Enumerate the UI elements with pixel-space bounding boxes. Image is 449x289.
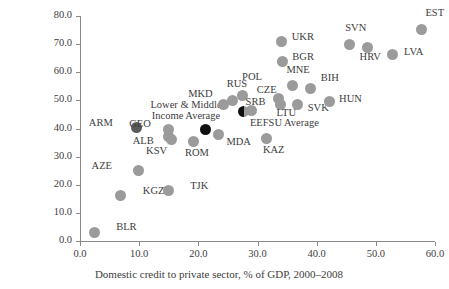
x-tick-label-40.0: 40.0 bbox=[295, 248, 339, 259]
data-point-svn bbox=[344, 39, 355, 50]
x-tick-60.0 bbox=[435, 242, 436, 246]
point-label-blr: BLR bbox=[116, 221, 136, 232]
point-label-mne: MNE bbox=[286, 64, 309, 75]
point-label-lva: LVA bbox=[404, 46, 423, 57]
point-label-lower-middle: Lower & MiddleIncome Average bbox=[150, 99, 221, 121]
data-point-est bbox=[416, 24, 427, 35]
y-tick-label-0.0: 0.0 bbox=[32, 234, 72, 245]
point-label-line2: Income Average bbox=[150, 110, 221, 121]
x-tick-20.0 bbox=[198, 242, 199, 246]
point-label-est: EST bbox=[425, 7, 444, 18]
y-axis-line bbox=[80, 16, 81, 242]
x-tick-label-0.0: 0.0 bbox=[58, 248, 102, 259]
x-tick-label-30.0: 30.0 bbox=[236, 248, 280, 259]
point-label-tjk: TJK bbox=[190, 180, 208, 191]
point-label-geo: GEO bbox=[129, 118, 151, 129]
data-point-bih bbox=[305, 83, 316, 94]
y-tick-20.0 bbox=[76, 185, 80, 186]
point-label-pol: POL bbox=[242, 71, 262, 82]
y-tick-label-30.0: 30.0 bbox=[32, 150, 72, 161]
point-label-bgr: BGR bbox=[292, 51, 314, 62]
x-tick-10.0 bbox=[139, 242, 140, 246]
x-tick-0.0 bbox=[80, 242, 81, 246]
point-label-line1: Lower & Middle bbox=[150, 99, 221, 110]
point-label-hrv: HRV bbox=[360, 51, 381, 62]
x-tick-label-60.0: 60.0 bbox=[413, 248, 449, 259]
y-tick-30.0 bbox=[76, 157, 80, 158]
y-tick-label-10.0: 10.0 bbox=[32, 206, 72, 217]
y-tick-label-40.0: 40.0 bbox=[32, 122, 72, 133]
point-label-svn: SVN bbox=[345, 22, 366, 33]
y-tick-10.0 bbox=[76, 213, 80, 214]
point-label-rom: ROM bbox=[185, 147, 209, 158]
x-tick-50.0 bbox=[376, 242, 377, 246]
y-tick-label-20.0: 20.0 bbox=[32, 178, 72, 189]
point-label-srb: SRB bbox=[246, 96, 266, 107]
point-label-ukr: UKR bbox=[292, 31, 314, 42]
data-point-tjk bbox=[163, 185, 174, 196]
data-point-ukr bbox=[276, 36, 287, 47]
data-point-hun bbox=[324, 96, 335, 107]
x-axis-title: Domestic credit to private sector, % of … bbox=[0, 268, 438, 280]
point-label-aze: AZE bbox=[92, 160, 112, 171]
data-point-rom bbox=[188, 136, 199, 147]
point-label-bih: BIH bbox=[321, 72, 339, 83]
data-point-mne bbox=[287, 80, 298, 91]
point-label-kgz: KGZ bbox=[143, 185, 165, 196]
y-tick-label-60.0: 60.0 bbox=[32, 65, 72, 76]
y-tick-60.0 bbox=[76, 72, 80, 73]
y-tick-70.0 bbox=[76, 44, 80, 45]
point-label-cze: CZE bbox=[257, 84, 277, 95]
point-label-mkd: MKD bbox=[188, 88, 213, 99]
data-point-ksv bbox=[166, 134, 177, 145]
data-point-kgz bbox=[115, 190, 126, 201]
data-point-lva bbox=[387, 49, 398, 60]
y-tick-label-80.0: 80.0 bbox=[32, 9, 72, 20]
data-point-lower-middle bbox=[200, 124, 211, 135]
point-label-mda: MDA bbox=[226, 136, 251, 147]
x-tick-40.0 bbox=[317, 242, 318, 246]
y-tick-label-50.0: 50.0 bbox=[32, 93, 72, 104]
data-point-mda bbox=[213, 129, 224, 140]
data-point-blr bbox=[89, 227, 100, 238]
data-point-aze bbox=[133, 165, 144, 176]
point-label-arm: ARM bbox=[89, 117, 113, 128]
x-tick-30.0 bbox=[258, 242, 259, 246]
y-tick-50.0 bbox=[76, 100, 80, 101]
data-point-bgr bbox=[277, 56, 288, 67]
y-tick-80.0 bbox=[76, 16, 80, 17]
data-point-svk bbox=[292, 99, 303, 110]
data-point-kaz bbox=[261, 133, 272, 144]
x-tick-label-10.0: 10.0 bbox=[117, 248, 161, 259]
point-label-hun: HUN bbox=[339, 93, 362, 104]
x-tick-label-20.0: 20.0 bbox=[176, 248, 220, 259]
point-label-kaz: KAZ bbox=[263, 144, 285, 155]
y-tick-label-70.0: 70.0 bbox=[32, 37, 72, 48]
point-label-eefsu-average: EEFSU Average bbox=[250, 117, 319, 128]
x-tick-label-50.0: 50.0 bbox=[354, 248, 398, 259]
point-label-ksv: KSV bbox=[146, 145, 167, 156]
data-point-srb bbox=[246, 105, 257, 116]
y-tick-40.0 bbox=[76, 129, 80, 130]
